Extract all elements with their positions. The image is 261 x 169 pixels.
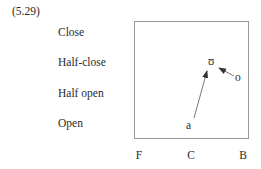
x-label-central: C [187, 150, 195, 162]
arrow-o-to-upsilon [219, 68, 234, 76]
symbol-upsilon: ʊ [208, 56, 214, 68]
symbol-o: o [235, 72, 241, 84]
symbol-a: a [186, 120, 191, 132]
chart-frame [135, 22, 249, 139]
x-label-back: B [239, 150, 247, 162]
x-label-front: F [136, 150, 142, 162]
vowel-chart [0, 0, 261, 169]
arrow-a-to-upsilon [194, 71, 207, 118]
